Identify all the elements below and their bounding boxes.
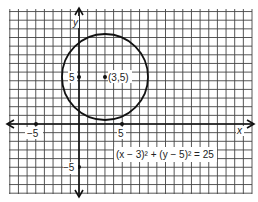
x-tick-point-5: [120, 122, 124, 126]
x-tick-point-neg5: [34, 122, 38, 126]
y-axis-label: y: [72, 17, 79, 28]
x-axis-label: x: [236, 125, 243, 136]
coordinate-plane: (3,5) 5 −5 −5 5 y x (x − 3)² + (y − 5)² …: [0, 0, 258, 202]
x-tick-label-neg5: −5: [27, 128, 39, 139]
grid: [9, 9, 252, 194]
center-label: (3,5): [108, 72, 129, 83]
x-tick-label-5: 5: [118, 128, 124, 139]
y-tick-label-5: 5: [69, 72, 75, 83]
y-tick-point-5: [77, 75, 81, 79]
center-point: [103, 75, 107, 79]
equation-label: (x − 3)² + (y − 5)² = 25: [116, 149, 214, 160]
y-tick-label-neg5: −5: [63, 162, 75, 173]
